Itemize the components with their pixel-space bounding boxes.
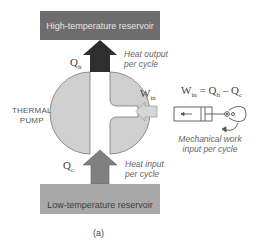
qh-symbol: Qh <box>70 56 81 71</box>
high-reservoir-label: High-temperature reservoir <box>46 21 154 31</box>
piston-crank-icon <box>174 106 246 132</box>
low-reservoir-label: Low-temperature reservoir <box>47 200 153 210</box>
heat-input-label: Heat input per cycle <box>125 159 164 179</box>
mechanical-work-label: Mechanical work input per cycle <box>174 134 246 154</box>
low-temperature-reservoir: Low-temperature reservoir <box>40 184 160 214</box>
heat-input-arrow <box>83 150 117 184</box>
win-symbol: Win <box>140 87 156 102</box>
heat-output-label: Heat output per cycle <box>124 49 168 69</box>
qc-symbol: Qc <box>63 159 74 174</box>
thermal-pump-label: THERMAL PUMP <box>12 106 52 126</box>
high-temperature-reservoir: High-temperature reservoir <box>40 11 160 40</box>
figure-caption: (a) <box>93 228 104 238</box>
thermal-pump-body <box>50 72 150 154</box>
heat-output-arrow <box>83 40 117 72</box>
work-equation: Win = Qh – Qc <box>181 84 242 99</box>
